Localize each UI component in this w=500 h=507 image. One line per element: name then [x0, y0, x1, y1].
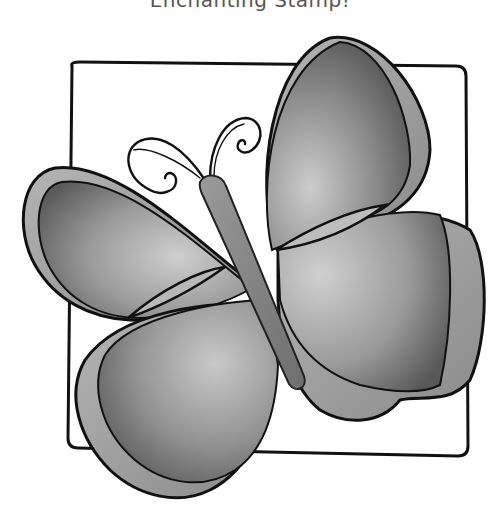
- butterfly-illustration: [0, 0, 500, 507]
- wing-lower-left: [76, 300, 278, 498]
- wing-lower-right: [276, 205, 484, 420]
- antennae: [128, 118, 260, 193]
